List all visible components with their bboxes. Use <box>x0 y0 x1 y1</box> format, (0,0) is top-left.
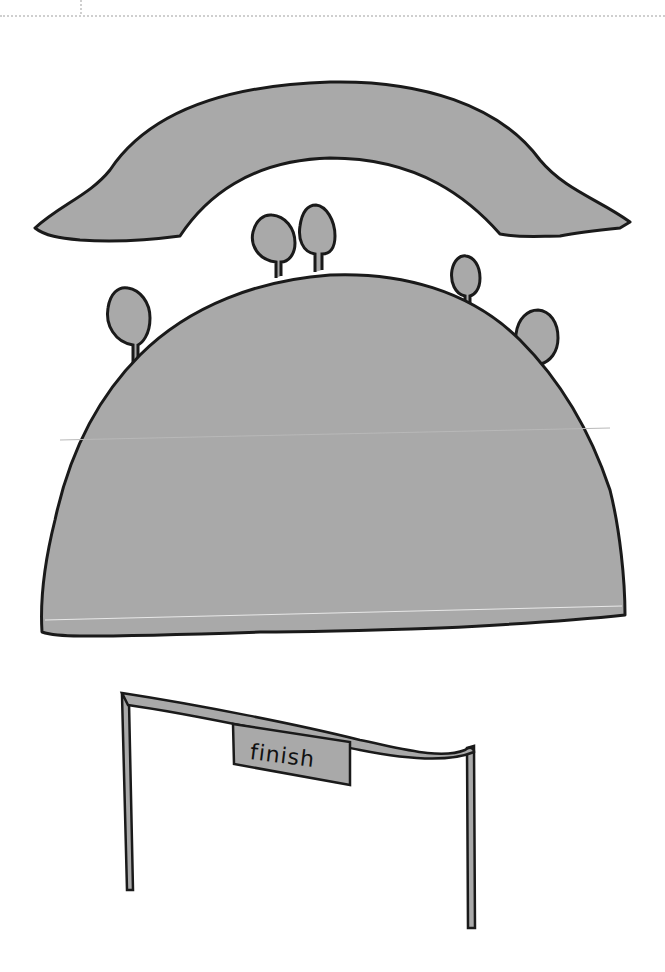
tree-icon <box>252 215 295 278</box>
arch-hill-piece <box>35 82 630 241</box>
tree-icon <box>300 205 335 272</box>
finish-gate: finish <box>122 693 475 928</box>
cutout-sheet: finish <box>0 0 665 972</box>
